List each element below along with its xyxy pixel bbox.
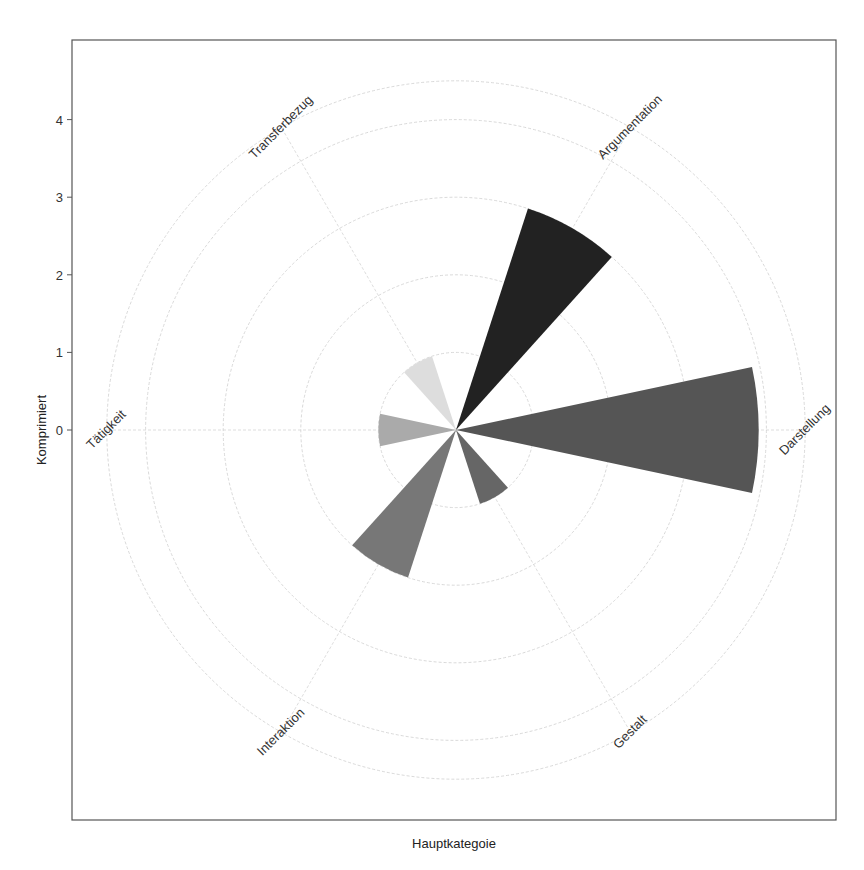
polar-bar-chart: DarstellungArgumentationTransferbezugTät… <box>0 0 864 870</box>
y-tick-label: 3 <box>56 190 63 205</box>
category-label: Gestalt <box>610 712 650 752</box>
y-tick-label: 0 <box>56 423 63 438</box>
wedge-darstellung <box>456 367 759 493</box>
x-axis-title: Hauptkategoie <box>412 836 496 851</box>
y-axis-ticks: 01234 <box>56 113 72 438</box>
y-tick-label: 4 <box>56 113 63 128</box>
wedge-interaktion <box>352 430 456 578</box>
wedge-transferbezug <box>404 356 456 430</box>
category-label: Argumentation <box>595 92 665 162</box>
data-wedges <box>352 209 758 578</box>
category-label: Transferbezug <box>246 92 316 162</box>
category-label: Tätigkeit <box>83 406 129 452</box>
category-label: Interaktion <box>254 705 308 759</box>
wedge-argumentation <box>456 209 612 430</box>
wedge-tätigkeit <box>378 414 456 446</box>
y-axis-title: Komprimiert <box>34 395 49 465</box>
y-tick-label: 2 <box>56 268 63 283</box>
y-tick-label: 1 <box>56 345 63 360</box>
wedge-gestalt <box>456 430 508 504</box>
